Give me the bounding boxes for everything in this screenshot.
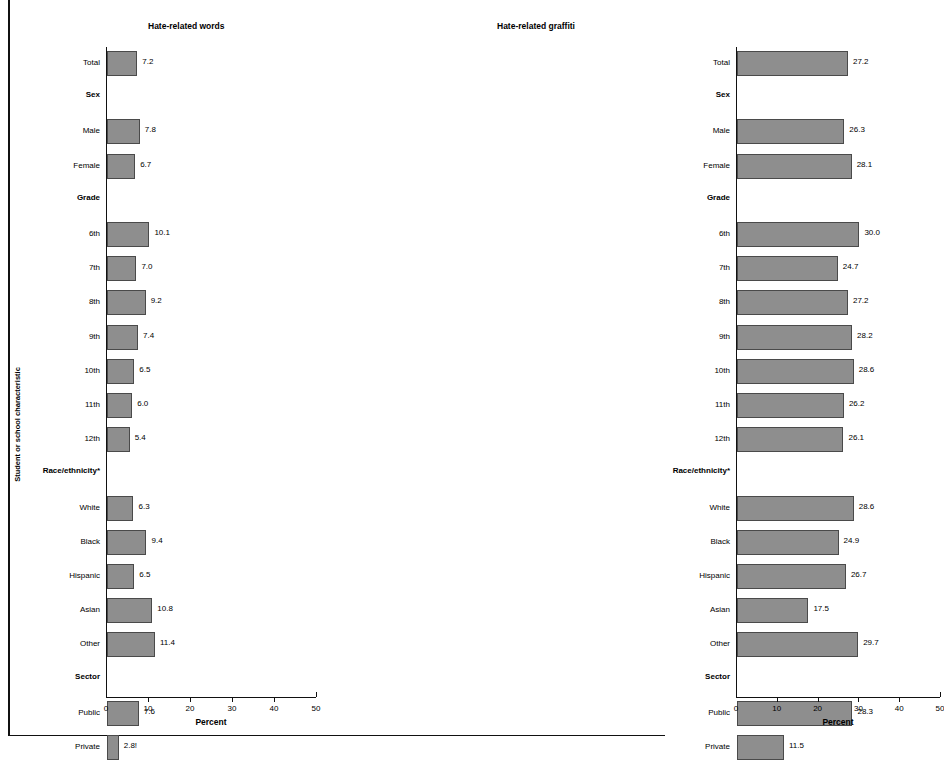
bar-value-label: 17.5	[813, 604, 829, 613]
chart-row: Black9.4	[106, 526, 316, 560]
category-label: 9th	[89, 332, 100, 341]
bar	[737, 632, 858, 657]
bar	[737, 290, 848, 315]
bar-value-label: 2.8!	[124, 741, 137, 750]
chart-row: White6.3	[106, 492, 316, 526]
bar-value-label: 6.0	[137, 399, 148, 408]
bar-value-label: 26.7	[851, 570, 867, 579]
chart-row: 9th28.2	[736, 321, 940, 355]
category-label: 6th	[719, 229, 730, 238]
axis-tick	[106, 692, 107, 697]
chart-row: Sex	[106, 81, 316, 115]
axis-tick-label: 10	[144, 704, 153, 713]
axis-tick	[899, 697, 900, 702]
axis-tick-label: 0	[734, 704, 738, 713]
bar-value-label: 28.6	[859, 365, 875, 374]
bar	[737, 154, 852, 179]
category-label: Total	[713, 58, 730, 67]
category-label: Public	[708, 708, 730, 717]
category-label: 10th	[714, 366, 730, 375]
x-axis-title-graffiti: Percent	[736, 717, 940, 727]
category-label: Hispanic	[699, 571, 730, 580]
axis-tick-label: 20	[186, 704, 195, 713]
chart-row: Total7.2	[106, 47, 316, 81]
group-header-label: Race/ethnicity*	[43, 466, 100, 475]
axis-tick	[274, 697, 275, 702]
category-label: 11th	[85, 400, 100, 409]
bar-value-label: 28.6	[859, 502, 875, 511]
chart-row: 6th10.1	[106, 218, 316, 252]
bar	[737, 359, 854, 384]
bar	[107, 632, 155, 657]
chart-row: 10th28.6	[736, 355, 940, 389]
bar-value-label: 24.7	[843, 262, 859, 271]
x-axis-words: Percent 01020304050	[106, 697, 316, 698]
chart-row: 6th30.0	[736, 218, 940, 252]
category-label: Male	[713, 126, 730, 135]
bar-value-label: 6.5	[139, 570, 150, 579]
bar	[107, 735, 119, 760]
axis-tick-label: 10	[772, 704, 781, 713]
bar	[107, 51, 137, 76]
axis-tick	[148, 697, 149, 702]
chart-row: Sex	[736, 81, 940, 115]
bar	[107, 256, 136, 281]
category-label: Asian	[710, 605, 730, 614]
chart-row: Female28.1	[736, 150, 940, 184]
bar	[737, 598, 808, 623]
chart-row: Male26.3	[736, 115, 940, 149]
chart-row: Total27.2	[736, 47, 940, 81]
chart-row: 8th27.2	[736, 286, 940, 320]
panel-title-graffiti: Hate-related graffiti	[497, 21, 575, 31]
axis-tick-label: 0	[104, 704, 108, 713]
bar-value-label: 28.2	[857, 331, 873, 340]
category-label: 12th	[714, 434, 730, 443]
bar	[737, 222, 859, 247]
chart-row: Hispanic26.7	[736, 560, 940, 594]
bar	[107, 290, 146, 315]
bar	[107, 325, 138, 350]
category-label: Black	[80, 537, 100, 546]
category-label: 8th	[89, 297, 100, 306]
bar	[737, 256, 838, 281]
bar-value-label: 26.1	[848, 433, 864, 442]
bar-value-label: 11.5	[789, 741, 804, 750]
bar	[107, 222, 149, 247]
bar-value-label: 7.0	[141, 262, 152, 271]
axis-tick-label: 30	[228, 704, 237, 713]
chart-row: 12th26.1	[736, 423, 940, 457]
chart-row: Race/ethnicity*	[106, 457, 316, 491]
chart-row: 7th24.7	[736, 252, 940, 286]
category-label: 10th	[84, 366, 100, 375]
bar	[737, 119, 844, 144]
bar	[737, 530, 839, 555]
axis-tick	[858, 697, 859, 702]
bar	[737, 564, 846, 589]
bar-value-label: 29.7	[863, 638, 879, 647]
bar-value-label: 26.3	[849, 125, 865, 134]
category-label: 9th	[719, 332, 730, 341]
bar	[737, 325, 852, 350]
x-axis-title-words: Percent	[106, 717, 316, 727]
axis-tick-label: 20	[813, 704, 822, 713]
bar	[737, 51, 848, 76]
group-header-label: Sex	[86, 90, 100, 99]
chart-row: 10th6.5	[106, 355, 316, 389]
category-label: Public	[78, 708, 100, 717]
category-label: Private	[75, 742, 100, 751]
bar	[737, 735, 784, 760]
bar-value-label: 9.2	[151, 296, 162, 305]
chart-row: 9th7.4	[106, 321, 316, 355]
category-label: Other	[710, 639, 730, 648]
category-label: 12th	[84, 434, 100, 443]
axis-tick-label: 40	[270, 704, 279, 713]
bar	[737, 393, 844, 418]
category-label: White	[710, 503, 730, 512]
chart-row: White28.6	[736, 492, 940, 526]
chart-row: Black24.9	[736, 526, 940, 560]
bar-value-label: 6.3	[138, 502, 149, 511]
bar	[107, 496, 133, 521]
chart-row: 12th5.4	[106, 423, 316, 457]
axis-tick	[777, 697, 778, 702]
bar	[737, 496, 854, 521]
